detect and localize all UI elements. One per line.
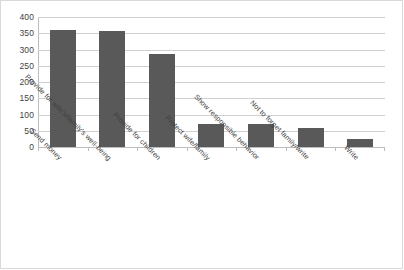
x-tick-mark: [286, 148, 287, 151]
x-tick-mark: [137, 148, 138, 151]
x-tick-mark: [88, 148, 89, 151]
y-tick-label: 0: [29, 142, 34, 152]
x-tick-mark: [236, 148, 237, 151]
bar-chart: 050100150200250300350400 Send moneyProvi…: [0, 0, 404, 270]
bars-layer: [38, 17, 385, 147]
y-tick-label: 300: [20, 45, 34, 55]
y-tick-label: 250: [20, 61, 34, 71]
bar[interactable]: [149, 54, 175, 147]
y-tick-label: 350: [20, 28, 34, 38]
x-tick-mark: [384, 148, 385, 151]
x-tick-mark: [187, 148, 188, 151]
bar-slot: [286, 17, 336, 147]
bar-slot: [335, 17, 385, 147]
plot-area: [38, 17, 385, 147]
y-tick-label: 400: [20, 12, 34, 22]
y-tick-label: 150: [20, 93, 34, 103]
y-tick-label: 100: [20, 110, 34, 120]
x-axis-labels: Send moneyProvide for wife's/family's we…: [38, 152, 385, 262]
x-tick-mark: [38, 148, 39, 151]
bar[interactable]: [50, 30, 76, 147]
bar[interactable]: [99, 31, 125, 147]
x-tick-mark: [335, 148, 336, 151]
